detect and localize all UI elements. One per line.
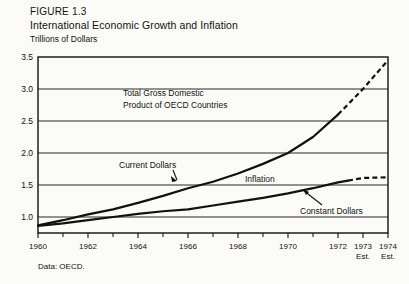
y-tick-label: 2.5 (21, 116, 33, 126)
inflation-label: Inflation (245, 174, 275, 184)
x-tick-label: 1968 (229, 242, 247, 251)
y-tick-label: 1.5 (21, 180, 33, 190)
estimate-marker: Est. (356, 252, 370, 261)
y-tick-label: 3.5 (21, 52, 33, 62)
x-tick-label: 1966 (179, 242, 197, 251)
x-tick-label: 1960 (29, 242, 47, 251)
y-tick-label: 3.0 (21, 84, 33, 94)
current-dollars-label: Current Dollars (119, 160, 176, 170)
x-tick-label: 1970 (279, 242, 297, 251)
chart-plot: 1.01.52.02.53.03.5 196019621964196619681… (0, 0, 409, 284)
chart-caption-line-2: Product of OECD Countries (123, 100, 227, 110)
x-tick-label: 1974 (379, 242, 397, 251)
y-tick-label: 2.0 (21, 148, 33, 158)
x-tick-label: 1964 (129, 242, 147, 251)
x-tick-label: 1962 (79, 242, 97, 251)
series-lines (38, 60, 388, 226)
y-tick-label: 1.0 (21, 212, 33, 222)
estimate-marker: Est. (381, 252, 395, 261)
chart-annotations: Total Gross DomesticProduct of OECD Coun… (119, 88, 363, 216)
source-note: Data: OECD. (38, 262, 85, 271)
x-axis-ticks: 196019621964196619681970197219731974Est.… (29, 233, 397, 261)
constant-dollars-label: Constant Dollars (300, 206, 363, 216)
x-tick-label: 1973 (354, 242, 372, 251)
figure-page: FIGURE 1.3 International Economic Growth… (0, 0, 409, 284)
x-tick-label: 1972 (329, 242, 347, 251)
y-axis-ticks: 1.01.52.02.53.03.5 (21, 52, 33, 222)
chart-caption-line-1: Total Gross Domestic (123, 88, 205, 98)
series-current-dollars (38, 60, 388, 225)
